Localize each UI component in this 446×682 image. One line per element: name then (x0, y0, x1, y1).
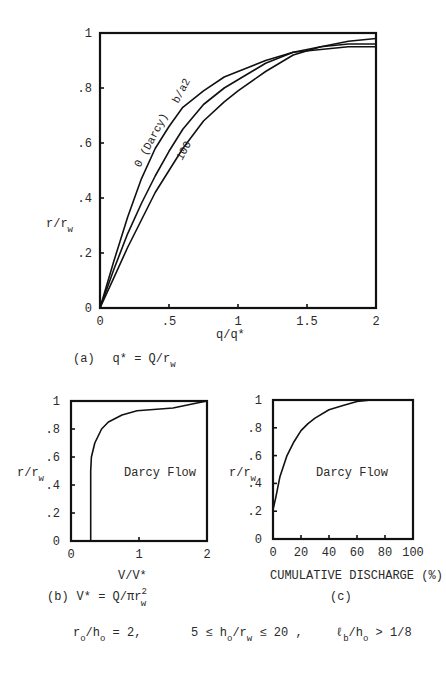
chart-b: 0120.2.4.6.81 r/rw Darcy Flow V/V* (b)V*… (17, 395, 211, 609)
x-tick-label: 2 (203, 548, 210, 562)
chart-a-ticks: 0.511.520.2.4.6.81 (78, 27, 380, 329)
chart-b-caption: (b)V* = Q/πr2w (47, 587, 147, 609)
chart-a-curves (100, 39, 376, 309)
chart-c: 0204060801000.2.4.6.81 r/rw Darcy Flow C… (229, 394, 443, 604)
conditions-line: ro/ho = 2, 5 ≤ ho/rw ≤ 20 , ℓb/ho > 1/8 (73, 626, 412, 644)
x-tick-label: 0 (67, 548, 74, 562)
y-tick-label: .6 (46, 451, 60, 465)
x-tick-label: 1.5 (296, 315, 318, 329)
chart-c-xlabel: CUMULATIVE DISCHARGE (%) (270, 569, 443, 583)
chart-b-xlabel: V/V* (118, 569, 147, 583)
y-tick-label: 1 (85, 27, 92, 41)
y-tick-label: 0 (53, 535, 60, 549)
y-tick-label: .2 (248, 505, 262, 519)
curve-label-darcy: 0 (Darcy) (132, 111, 170, 169)
y-tick-label: 0 (255, 533, 262, 547)
chart-c-curves (273, 400, 413, 510)
chart-a-ylabel: r/rw (46, 217, 74, 235)
y-tick-label: .8 (46, 423, 60, 437)
condition-lb-ho: ℓb/ho > 1/8 (336, 626, 412, 644)
y-tick-label: 0 (85, 302, 92, 316)
x-tick-label: 60 (350, 546, 364, 560)
x-tick-label: 1 (135, 548, 142, 562)
figure: 0.511.520.2.4.6.81 r/rw q/q* 0 (Darcy) b… (0, 0, 446, 682)
x-tick-label: 100 (402, 546, 424, 560)
x-tick-label: 40 (322, 546, 336, 560)
x-tick-label: 80 (378, 546, 392, 560)
chart-a: 0.511.520.2.4.6.81 r/rw q/q* 0 (Darcy) b… (46, 27, 380, 370)
chart-c-ylabel: r/rw (229, 466, 257, 484)
y-tick-label: .4 (46, 479, 60, 493)
chart-c-caption: (c) (330, 590, 352, 604)
x-tick-label: 1 (234, 315, 241, 329)
x-tick-label: .5 (162, 315, 176, 329)
chart-a-frame (100, 33, 376, 308)
chart-a-caption: (a)q* = Q/rw (73, 352, 176, 370)
x-tick-label: 20 (294, 546, 308, 560)
curve-0-darcy (100, 47, 376, 308)
chart-b-annotation: Darcy Flow (124, 466, 197, 480)
x-tick-label: 0 (96, 315, 103, 329)
y-tick-label: 1 (53, 395, 60, 409)
condition-ho-rw: 5 ≤ ho/rw ≤ 20 , (191, 626, 303, 644)
y-tick-label: .8 (78, 82, 92, 96)
chart-a-xlabel: q/q* (216, 328, 245, 342)
y-tick-label: .2 (46, 507, 60, 521)
y-tick-label: .6 (78, 137, 92, 151)
y-tick-label: .4 (78, 192, 92, 206)
y-tick-label: .2 (78, 247, 92, 261)
curve-b-a2 (100, 44, 376, 308)
y-tick-label: .6 (248, 450, 262, 464)
condition-ro-ho: ro/ho = 2, (73, 626, 141, 644)
curve-label-100: 100 (174, 139, 194, 162)
x-tick-label: 2 (372, 315, 379, 329)
curve-darcy-flow (273, 400, 413, 510)
y-tick-label: 1 (255, 394, 262, 408)
chart-b-ylabel: r/rw (17, 466, 45, 484)
x-tick-label: 0 (269, 546, 276, 560)
y-tick-label: .8 (248, 422, 262, 436)
chart-c-annotation: Darcy Flow (316, 466, 389, 480)
